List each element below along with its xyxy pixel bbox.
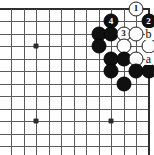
board-point-labels: ba <box>0 0 154 155</box>
point-label-a: a <box>145 53 152 65</box>
point-label-b: b <box>145 28 153 40</box>
go-board-diagram: 1243 ba <box>0 0 154 155</box>
